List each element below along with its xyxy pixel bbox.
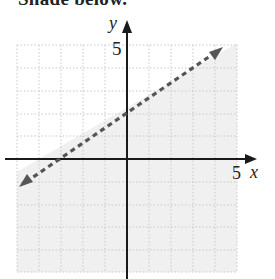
x-axis-label: x (249, 162, 258, 182)
x-tick-label: 5 (232, 163, 241, 183)
y-axis-arrow-icon (122, 20, 132, 33)
coordinate-graph: y 5 5 x (0, 0, 275, 279)
y-tick-label: 5 (112, 38, 122, 59)
y-axis-label: y (107, 13, 117, 33)
